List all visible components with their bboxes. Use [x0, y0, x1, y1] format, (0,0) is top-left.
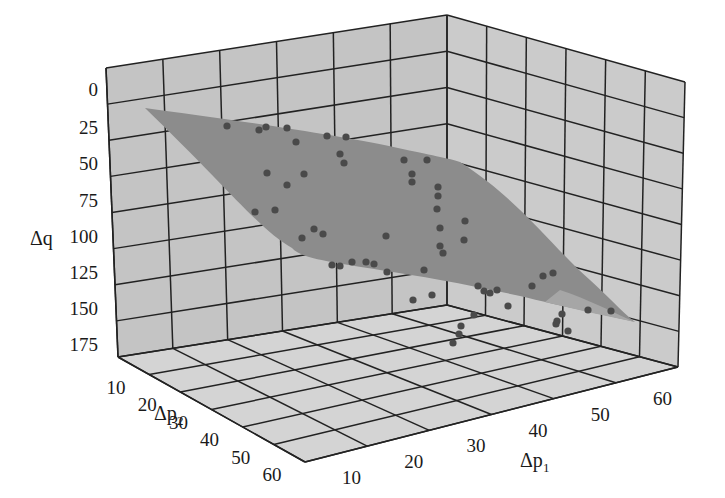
x-tick-label: 50: [591, 404, 610, 425]
data-point: [383, 268, 390, 275]
data-point: [420, 266, 427, 273]
z-tick-label: 75: [79, 190, 98, 211]
z-tick-label: 25: [79, 117, 98, 138]
data-point: [271, 206, 278, 213]
data-point: [528, 282, 535, 289]
x-tick-label: 10: [342, 467, 361, 488]
data-point: [455, 330, 462, 337]
data-point: [348, 258, 355, 265]
data-point: [504, 302, 511, 309]
data-point: [433, 205, 440, 212]
z-tick-label: 175: [70, 334, 99, 355]
x-axis-label-main: Δp: [520, 449, 543, 472]
data-point: [251, 208, 258, 215]
data-point: [328, 261, 335, 268]
data-point: [382, 232, 389, 239]
data-point: [539, 272, 546, 279]
data-point: [460, 236, 467, 243]
data-point: [423, 156, 430, 163]
z-tick-label: 0: [89, 79, 99, 100]
data-point: [439, 249, 446, 256]
data-point: [336, 262, 343, 269]
data-point: [323, 132, 330, 139]
x-tick-label: 30: [466, 435, 485, 456]
x-axis-label: Δp1: [520, 449, 549, 475]
y-axis-label-main: Δp: [154, 402, 177, 425]
data-point: [564, 327, 571, 334]
data-point: [319, 230, 326, 237]
data-point: [470, 311, 477, 318]
data-point: [362, 258, 369, 265]
data-point: [457, 322, 464, 329]
z-axis-label: Δq: [30, 227, 53, 250]
data-point: [292, 138, 299, 145]
data-point: [262, 123, 269, 130]
y-tick-label: 10: [107, 377, 126, 398]
data-point: [408, 178, 415, 185]
data-point: [400, 156, 407, 163]
z-tick-label: 125: [70, 262, 99, 283]
data-point: [434, 183, 441, 190]
x-tick-label: 40: [529, 420, 548, 441]
z-axis-ticks: 0255075100125150175: [70, 79, 99, 355]
data-point: [493, 286, 500, 293]
data-point: [434, 192, 441, 199]
data-point: [223, 122, 230, 129]
y-tick-label: 50: [231, 447, 250, 468]
data-point: [283, 181, 290, 188]
y-tick-label: 40: [200, 429, 219, 450]
y-tick-label: 60: [262, 464, 281, 485]
data-point: [408, 170, 415, 177]
data-point: [283, 124, 290, 131]
data-point: [584, 306, 591, 313]
data-point: [263, 169, 270, 176]
data-point: [436, 224, 443, 231]
data-point: [558, 310, 565, 317]
data-point: [474, 282, 481, 289]
z-tick-label: 50: [79, 153, 98, 174]
data-point: [300, 170, 307, 177]
data-point: [486, 289, 493, 296]
y-axis-label-sub: 2: [177, 413, 184, 428]
data-point: [552, 320, 559, 327]
data-point: [449, 339, 456, 346]
data-point: [607, 307, 614, 314]
data-point: [370, 260, 377, 267]
data-point: [342, 133, 349, 140]
3d-surface-chart: 0255075100125150175 102030405060 1020304…: [0, 0, 725, 498]
x-tick-label: 60: [653, 388, 672, 409]
x-axis-label-sub: 1: [543, 460, 550, 475]
data-point: [549, 269, 556, 276]
data-point: [340, 159, 347, 166]
data-point: [428, 291, 435, 298]
data-point: [461, 217, 468, 224]
data-point: [255, 126, 262, 133]
data-point: [336, 150, 343, 157]
z-tick-label: 100: [70, 226, 99, 247]
data-point: [409, 296, 416, 303]
z-tick-label: 150: [70, 298, 99, 319]
x-tick-label: 20: [404, 451, 423, 472]
data-point: [310, 225, 317, 232]
data-point: [436, 242, 443, 249]
data-point: [298, 234, 305, 241]
